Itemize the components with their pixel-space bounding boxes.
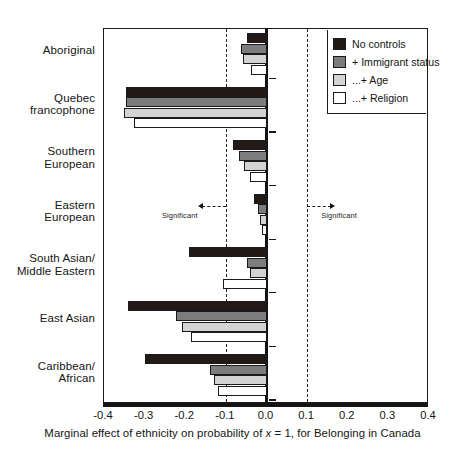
bar-6-1 <box>210 365 267 375</box>
bar-4-0 <box>189 247 266 257</box>
category-label-3: EasternEuropean <box>0 199 95 224</box>
category-label-line: European <box>0 211 95 224</box>
legend-item-2: ...+ Age <box>328 71 426 89</box>
x-tick-label-3: -0.1 <box>205 409 245 421</box>
bar-3-2 <box>260 215 267 225</box>
bar-6-0 <box>145 354 267 364</box>
legend-item-3: ...+ Religion <box>328 89 426 107</box>
x-tick-label-8: 0.4 <box>408 409 448 421</box>
significance-arrow-line-0 <box>202 206 226 207</box>
category-label-line: East Asian <box>0 312 95 325</box>
bar-2-0 <box>233 140 266 150</box>
category-label-line: Aboriginal <box>0 44 95 57</box>
significance-threshold-line-1 <box>307 29 308 402</box>
bar-5-2 <box>182 322 267 332</box>
significance-arrow-head-0 <box>198 203 203 209</box>
x-axis-title-variable: x <box>266 427 272 439</box>
bar-0-3 <box>251 65 266 75</box>
legend-swatch-icon-0 <box>333 38 346 50</box>
category-tick-0 <box>269 78 276 79</box>
bar-3-1 <box>258 204 267 214</box>
x-tick-label-7: 0.3 <box>367 409 407 421</box>
category-axis-labels: AboriginalQuebecfrancophoneSouthernEurop… <box>0 28 99 403</box>
category-tick-1 <box>269 131 276 132</box>
significance-label-1: Significant <box>321 211 357 220</box>
x-axis-title: Marginal effect of ethnicity on probabil… <box>0 427 465 439</box>
category-label-6: Caribbean/African <box>0 360 95 385</box>
significance-arrow-head-1 <box>330 203 335 209</box>
category-label-line: Southern <box>0 145 95 158</box>
bar-4-2 <box>250 268 266 278</box>
legend-item-0: No controls <box>328 35 426 53</box>
x-tick-label-1: -0.3 <box>124 409 164 421</box>
chart-legend: No controls+ Immigrant status...+ Age...… <box>327 30 426 114</box>
category-tick-2 <box>269 185 276 186</box>
legend-swatch-icon-2 <box>333 74 346 86</box>
bar-1-3 <box>134 118 266 128</box>
bar-2-3 <box>250 172 266 182</box>
bar-2-2 <box>244 161 266 171</box>
bar-3-0 <box>254 194 267 204</box>
significance-label-0: Significant <box>162 211 198 220</box>
legend-label-1: + Immigrant status <box>352 56 439 68</box>
category-label-line: Quebec <box>0 92 95 105</box>
legend-item-1: + Immigrant status <box>328 53 426 71</box>
category-label-2: SouthernEuropean <box>0 145 95 170</box>
category-label-line: Eastern <box>0 199 95 212</box>
chart-figure: AboriginalQuebecfrancophoneSouthernEurop… <box>0 0 465 459</box>
bar-5-0 <box>128 301 266 311</box>
legend-swatch-icon-1 <box>333 56 346 68</box>
category-label-line: European <box>0 158 95 171</box>
bar-3-3 <box>262 225 266 235</box>
category-label-line: South Asian/ <box>0 252 95 265</box>
significance-arrow-line-1 <box>307 206 331 207</box>
x-tick-label-6: 0.2 <box>327 409 367 421</box>
bar-1-0 <box>126 87 266 97</box>
x-tick-label-2: -0.2 <box>164 409 204 421</box>
x-tick-label-0: -0.4 <box>83 409 123 421</box>
bar-0-0 <box>247 33 267 43</box>
category-tick-5 <box>269 346 276 347</box>
legend-label-2: ...+ Age <box>352 74 388 86</box>
category-tick-6 <box>269 399 276 400</box>
category-label-line: Middle Eastern <box>0 265 95 278</box>
bar-1-1 <box>126 97 266 107</box>
legend-swatch-icon-3 <box>333 92 346 104</box>
legend-label-3: ...+ Religion <box>352 92 408 104</box>
bar-5-1 <box>176 311 266 321</box>
category-label-line: African <box>0 372 95 385</box>
x-tick-label-4: 0.0 <box>246 409 286 421</box>
bar-0-2 <box>243 54 266 64</box>
category-tick-3 <box>269 239 276 240</box>
category-label-line: francophone <box>0 104 95 117</box>
x-tick-label-5: 0.1 <box>286 409 326 421</box>
category-label-line: Caribbean/ <box>0 360 95 373</box>
bar-4-3 <box>223 279 267 289</box>
legend-label-0: No controls <box>352 38 406 50</box>
category-label-1: Quebecfrancophone <box>0 92 95 117</box>
bar-6-3 <box>218 386 267 396</box>
bar-5-3 <box>191 332 267 342</box>
significance-threshold-line-0 <box>226 29 227 402</box>
category-label-5: East Asian <box>0 312 95 325</box>
x-axis-line <box>103 403 428 407</box>
bar-2-1 <box>239 151 267 161</box>
category-label-4: South Asian/Middle Eastern <box>0 252 95 277</box>
category-tick-4 <box>269 292 276 293</box>
bar-1-2 <box>124 108 266 118</box>
category-label-0: Aboriginal <box>0 44 95 57</box>
bar-4-1 <box>247 258 267 268</box>
bar-6-2 <box>214 375 267 385</box>
bar-0-1 <box>241 44 267 54</box>
